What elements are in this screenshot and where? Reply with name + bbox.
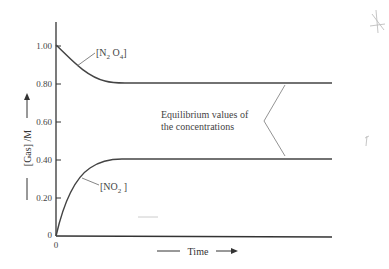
x-axis — [56, 236, 332, 237]
x-axis-label: Time — [157, 246, 238, 257]
no2-curve — [56, 159, 332, 236]
equilibrium-annotation-line1: Equilibrium values of — [161, 109, 249, 120]
svg-text:Time: Time — [188, 246, 209, 257]
svg-text:0: 0 — [54, 240, 59, 250]
equilibrium-pointer — [264, 85, 285, 156]
n2o4-label: [N2 O4] — [96, 47, 127, 61]
equilibrium-chart: 1.00 0.80 0.60 0.40 0.20 0 0 [Gas] /M Ti… — [0, 0, 389, 269]
y-ticks — [56, 46, 61, 198]
svg-text:0.20: 0.20 — [36, 193, 52, 203]
no2-label: [NO2 ] — [100, 181, 127, 195]
equilibrium-annotation-line2: the concentrations — [161, 121, 234, 132]
svg-text:0.40: 0.40 — [36, 155, 52, 165]
svg-text:[Gas] /M: [Gas] /M — [22, 130, 33, 166]
svg-text:0.60: 0.60 — [36, 117, 52, 127]
no2-leader — [82, 178, 99, 185]
svg-text:0: 0 — [48, 230, 53, 240]
svg-text:1.00: 1.00 — [36, 41, 52, 51]
svg-text:0.80: 0.80 — [36, 79, 52, 89]
scan-artifacts — [365, 10, 385, 146]
n2o4-leader — [77, 53, 95, 66]
y-axis-label: [Gas] /M — [22, 93, 33, 200]
